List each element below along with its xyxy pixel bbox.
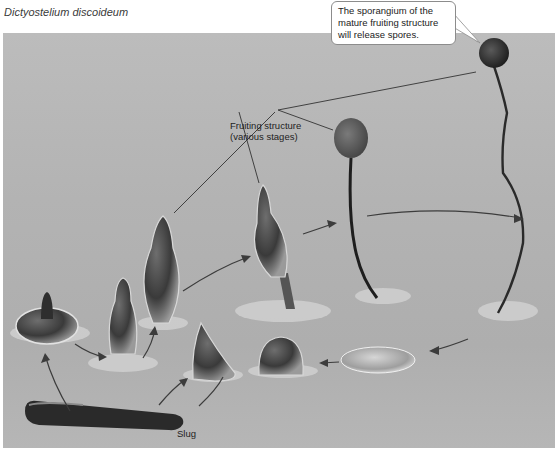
fruiting-label-line-2: (various stages): [230, 131, 301, 142]
young-fruiting-body: [334, 118, 377, 298]
slug-label: Slug: [177, 428, 196, 439]
tipped-mound: [193, 323, 236, 381]
callout-line-3: will release spores.: [338, 29, 449, 41]
finger-culminant: [109, 278, 137, 354]
rounded-mound: [259, 337, 303, 375]
flat-aggregate: [341, 347, 415, 373]
sem-photograph: [3, 33, 555, 448]
callout-line-1: The sporangium of the: [338, 5, 449, 17]
mexican-hat: [16, 292, 78, 344]
early-culminant: [144, 216, 179, 323]
species-title: Dictyostelium discoideum: [4, 6, 128, 18]
cell-scene-illustration: [3, 33, 555, 448]
sporangium-callout: The sporangium of the mature fruiting st…: [331, 1, 456, 45]
fruiting-structure-label: Fruiting structure (various stages): [230, 120, 301, 142]
callout-line-2: mature fruiting structure: [338, 17, 449, 29]
mature-fruiting-body: [479, 38, 523, 313]
fruiting-label-line-1: Fruiting structure: [230, 120, 301, 131]
mid-culminant: [254, 185, 295, 309]
